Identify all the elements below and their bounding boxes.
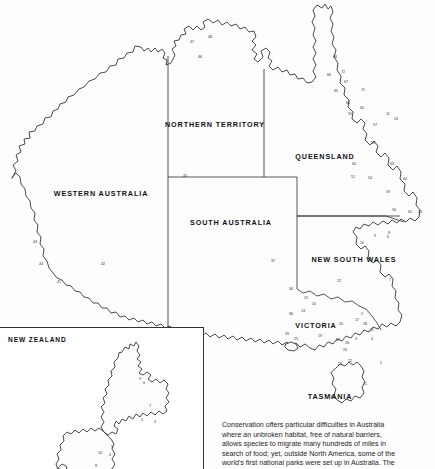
park-number-marker: 31 [370, 329, 374, 333]
park-number-marker: 29 [285, 333, 289, 337]
park-number-marker: 21 [363, 383, 367, 387]
park-number-marker: 54 [368, 177, 372, 181]
park-number-marker: 64 [352, 163, 356, 167]
state-label-south-australia: SOUTH AUSTRALIA [190, 218, 272, 227]
park-number-marker: 36 [289, 313, 293, 317]
nz-park-number-marker: 5 [111, 446, 113, 450]
caption-line: search of food; yet, outside North Ameri… [222, 450, 432, 460]
caption-text: Conservation offers particular difficult… [222, 421, 432, 469]
park-number-marker: 51 [351, 176, 355, 180]
caption-line: world's first national parks were set up… [222, 459, 432, 469]
state-label-victoria: VICTORIA [295, 321, 336, 330]
park-number-marker: 44 [39, 263, 43, 267]
caption-line: where an unbroken habitat, free of natur… [222, 431, 432, 441]
park-number-marker: 53 [418, 211, 422, 215]
park-number-marker: 37 [271, 260, 275, 264]
park-number-marker: 23 [338, 363, 342, 367]
park-number-marker: 65 [334, 90, 338, 94]
park-number-marker: 26 [345, 342, 349, 346]
park-number-marker: 9 [374, 235, 376, 239]
park-number-marker: 15 [304, 297, 308, 301]
nz-park-number-marker: 8 [95, 465, 97, 469]
nz-park-number-marker: 3 [154, 421, 156, 425]
park-number-marker: 25 [294, 338, 298, 342]
park-number-marker: 61 [346, 102, 350, 106]
state-label-western-australia: WESTERN AUSTRALIA [54, 189, 149, 198]
park-number-marker: 14 [394, 118, 398, 122]
park-number-marker: 58 [371, 142, 375, 146]
park-number-marker: 41 [57, 281, 61, 285]
park-number-marker: 48 [208, 36, 212, 40]
park-number-marker: 12 [337, 280, 341, 284]
park-number-marker: 16 [312, 303, 316, 307]
park-number-marker: 18 [363, 323, 367, 327]
nz-north-island [101, 342, 169, 435]
state-label-queensland: QUEENSLAND [295, 152, 354, 161]
park-number-marker: 55 [348, 113, 352, 117]
park-number-marker: 30 [330, 396, 334, 400]
nz-park-number-marker: 7 [149, 405, 151, 409]
park-number-marker: 2 [361, 313, 363, 317]
park-number-marker: 27 [336, 339, 340, 343]
park-number-marker: 59 [386, 191, 390, 195]
park-number-marker: 13 [301, 310, 305, 314]
park-number-marker: 42 [101, 263, 105, 267]
nz-park-number-marker: 10 [98, 452, 102, 456]
park-number-marker: 65 [360, 107, 364, 111]
park-number-marker: 19 [318, 335, 322, 339]
park-number-marker: 20 [339, 323, 343, 327]
park-number-marker: 43 [33, 241, 37, 245]
park-number-marker: 10 [360, 242, 364, 246]
park-number-marker: 22 [348, 360, 352, 364]
park-number-marker: 57 [373, 124, 377, 128]
caption-line: Conservation offers particular difficult… [222, 421, 432, 431]
park-number-marker: 11 [386, 113, 390, 117]
new-zealand-inset: NEW ZEALAND 9672351048 [0, 327, 204, 469]
park-number-marker: 3 [355, 338, 357, 342]
nz-park-number-marker: 4 [109, 454, 111, 458]
park-number-marker: 47 [190, 41, 194, 45]
nz-park-number-marker: 2 [141, 419, 143, 423]
park-number-marker: 67 [344, 81, 348, 85]
park-number-marker: 7 [389, 279, 391, 283]
nz-south-island [56, 428, 115, 469]
park-number-marker: 6 [387, 236, 389, 240]
park-number-marker: 68 [333, 56, 337, 60]
park-number-marker: 46 [198, 56, 202, 60]
park-number-marker: 56 [392, 209, 396, 213]
park-number-marker: 5 [380, 362, 382, 366]
caption-line: allows species to migrate many hundreds … [222, 440, 432, 450]
park-number-marker: 62 [408, 211, 412, 215]
state-label-northern-territory: NORTHERN TERRITORY [165, 120, 265, 129]
park-number-marker: 17 [355, 319, 359, 323]
nz-park-number-marker: 9 [139, 378, 141, 382]
park-number-marker: 66 [327, 74, 331, 78]
new-zealand-map [0, 328, 204, 469]
park-number-marker: 72 [341, 71, 345, 75]
park-number-marker: 24 [343, 349, 347, 353]
nz-park-number-marker: 6 [143, 382, 145, 386]
park-number-marker: 8 [388, 232, 390, 236]
park-number-marker: 64 [403, 178, 407, 182]
park-number-marker: 63 [390, 163, 394, 167]
state-label-new-south-wales: NEW SOUTH WALES [312, 255, 397, 264]
park-number-marker: 45 [183, 175, 187, 179]
page-canvas: WESTERN AUSTRALIA NORTHERN TERRITORY SOU… [0, 0, 435, 469]
park-number-marker: 71 [361, 89, 365, 93]
park-number-marker: 34 [289, 288, 293, 292]
park-number-marker: 4 [371, 338, 373, 342]
